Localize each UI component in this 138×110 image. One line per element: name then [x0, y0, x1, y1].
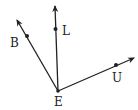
- point-l: [54, 27, 58, 31]
- label-b: B: [10, 36, 19, 50]
- ray-eu: [58, 58, 134, 91]
- ray-el: [55, 6, 58, 91]
- point-u: [114, 63, 118, 67]
- vertex-point-e: [56, 89, 60, 93]
- angle-diagram: E B L U: [0, 0, 138, 110]
- label-u: U: [112, 71, 122, 85]
- label-l: L: [62, 24, 70, 38]
- point-b: [25, 34, 29, 38]
- label-e: E: [54, 95, 63, 109]
- ray-eb: [17, 20, 58, 91]
